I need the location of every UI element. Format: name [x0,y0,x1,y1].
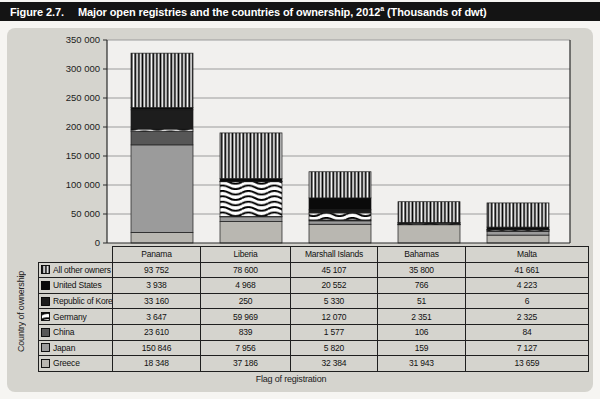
table-row-republic-of-korea: Republic of Korea33 1602505 330516 [39,293,589,309]
legend-cell: Japan [39,340,113,356]
legend-swatch-icon [41,328,50,337]
value-cell: 45 107 [291,262,378,278]
series-label: United States [53,280,101,290]
bar-segment-greece [398,224,460,243]
figure-number: Figure 2.7. [10,6,64,18]
value-cell: 59 969 [201,309,291,325]
bar-segment-all-other-owners [131,53,193,107]
bar-segment-united-states [487,227,549,229]
stacked-bar-chart: 350 000300 000250 000200 000150 000100 0… [8,28,592,247]
value-cell: 7 956 [201,340,291,356]
value-cell: 7 127 [466,340,589,356]
bar-segment-all-other-owners [309,172,371,198]
column-header-panama: Panama [113,247,201,263]
y-axis-tick-label: 200 000 [66,121,100,132]
y-axis-tick-label: 350 000 [66,34,100,45]
figure-title-units: (Thousands of dwt) [384,6,487,18]
series-label: Japan [53,343,75,353]
legend-cell: Germany [39,309,113,325]
bar-segment-greece [309,224,371,243]
bar-segment-republic-of-korea [309,210,371,213]
series-label: All other owners [53,265,111,275]
bar-segment-japan [309,221,371,224]
y-axis-tick-label: 250 000 [66,92,100,103]
series-label: Greece [53,358,80,368]
legend-cell: China [39,324,113,340]
y-axis-tick-label: 100 000 [66,179,100,190]
bar-segment-all-other-owners [487,203,549,227]
bar-segment-all-other-owners [398,202,460,223]
value-cell: 106 [378,324,466,340]
data-table: PanamaLiberiaMarshall IslandsBahamasMalt… [38,246,589,372]
value-cell: 78 600 [201,262,291,278]
legend-swatch-icon [41,265,50,274]
legend-cell: All other owners [39,262,113,278]
bar-segment-united-states [309,198,371,210]
value-cell: 2 325 [466,309,589,325]
bar-segment-greece [220,221,282,243]
column-header-marshall-islands: Marshall Islands [291,247,378,263]
value-cell: 31 943 [378,356,466,372]
value-cell: 51 [378,293,466,309]
legend-cell: Greece [39,356,113,372]
bar-segment-germany [220,182,282,217]
value-cell: 41 661 [466,262,589,278]
bar-segment-greece [487,235,549,243]
table-row-japan: Japan150 8467 9565 8201597 127 [39,340,589,356]
value-cell: 33 160 [113,293,201,309]
value-cell: 32 384 [291,356,378,372]
bar-segment-republic-of-korea [131,110,193,129]
table-row-all-other-owners: All other owners93 75278 60045 10735 800… [39,262,589,278]
figure-title: Major open registries and the countries … [78,5,487,18]
value-cell: 35 800 [378,262,466,278]
table-row-greece: Greece18 34837 18632 38431 94313 659 [39,356,589,372]
value-cell: 159 [378,340,466,356]
bar-segment-germany [309,213,371,220]
column-header-liberia: Liberia [201,247,291,263]
flag-of-registration-axis-label: Flag of registration [8,374,574,384]
value-cell: 4 968 [201,278,291,294]
table-header-row: PanamaLiberiaMarshall IslandsBahamasMalt… [39,247,589,263]
bar-segment-greece [131,232,193,243]
value-cell: 20 552 [291,278,378,294]
value-cell: 84 [466,324,589,340]
value-cell: 5 330 [291,293,378,309]
bar-segment-japan [220,217,282,222]
legend-swatch-icon [41,281,50,290]
value-cell: 3 647 [113,309,201,325]
value-cell: 37 186 [201,356,291,372]
value-cell: 4 223 [466,278,589,294]
value-cell: 2 351 [378,309,466,325]
figure-2-7: Figure 2.7. Major open registries and th… [0,0,600,399]
country-of-ownership-axis-label: Country of ownership [16,252,30,370]
series-label: Republic of Korea [53,296,113,306]
bar-segment-united-states [220,179,282,182]
bar-segment-japan [131,145,193,232]
value-cell: 5 820 [291,340,378,356]
value-cell: 6 [466,293,589,309]
value-cell: 93 752 [113,262,201,278]
legend-cell: United States [39,278,113,294]
value-cell: 150 846 [113,340,201,356]
y-axis-tick-label: 50 000 [71,208,100,219]
table-row-china: China23 6108391 57710684 [39,324,589,340]
table-row-germany: Germany3 64759 96912 0702 3512 325 [39,309,589,325]
legend-swatch-icon [41,312,50,321]
legend-swatch-icon [41,359,50,368]
legend-swatch-icon [41,297,50,306]
y-axis-tick-label: 300 000 [66,63,100,74]
value-cell: 250 [201,293,291,309]
column-header-bahamas: Bahamas [378,247,466,263]
series-label: China [53,327,74,337]
value-cell: 23 610 [113,324,201,340]
figure-title-text: Major open registries and the countries … [78,6,380,18]
value-cell: 13 659 [466,356,589,372]
table-row-united-states: United States3 9384 96820 5527664 223 [39,278,589,294]
table-corner [39,247,113,263]
value-cell: 766 [378,278,466,294]
bar-segment-all-other-owners [220,133,282,179]
value-cell: 18 348 [113,356,201,372]
column-header-malta: Malta [466,247,589,263]
y-axis-tick-label: 150 000 [66,150,100,161]
legend-swatch-icon [41,343,50,352]
